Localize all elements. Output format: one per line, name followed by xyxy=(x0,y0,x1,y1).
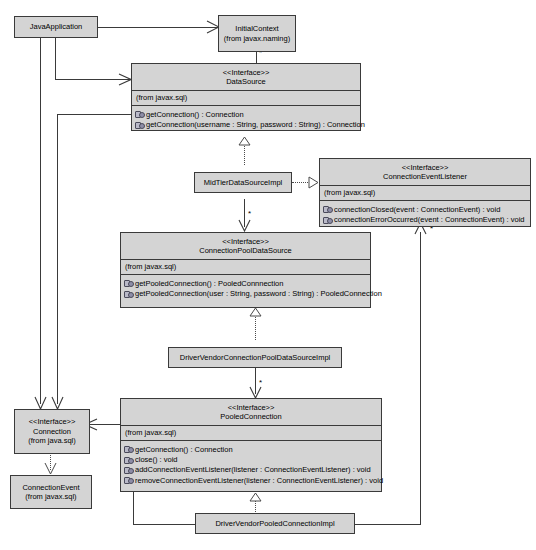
method-icon xyxy=(323,216,331,223)
class-box-drivervendorconnectionpooldatasourceimpl[interactable]: DriverVendorConnectionPoolDataSourceImpl xyxy=(168,347,342,368)
class-name-connectionpooldatasource: ConnectionPoolDataSource xyxy=(124,246,367,255)
class-box-drivervendorpooledconnectionimpl[interactable]: DriverVendorPooledConnectionImpl xyxy=(195,513,355,534)
arrowhead-cpds xyxy=(238,219,251,232)
class-box-connectioneventlistener[interactable]: <<Interface>> ConnectionEventListener (f… xyxy=(319,158,531,227)
operation-label: getConnection() : Connection xyxy=(135,445,233,454)
class-box-initialcontext[interactable]: InitialContext (from javax.naming) xyxy=(218,15,296,52)
class-stereotype-datasource: <<Interface>> xyxy=(135,68,357,77)
operation-label: addConnectionEventListener(listener : Co… xyxy=(135,465,371,474)
operation-row: getConnection(username : String, passwor… xyxy=(135,120,357,130)
edge-dvpcimpl-listener-v xyxy=(420,232,421,525)
edge-dvpcimpl-connection-h1 xyxy=(133,524,195,525)
class-operations-connectionpooldatasource: getPooledConnection() : PooledConnnectio… xyxy=(121,274,370,302)
edge-dvcpdsimpl-cpds-realization xyxy=(255,315,256,340)
class-name-datasource: DataSource xyxy=(135,77,357,86)
operation-label: removeConnectionEventListener(listener :… xyxy=(135,476,383,485)
class-box-connection[interactable]: <<Interface>> Connection (from java.sql) xyxy=(14,409,90,454)
method-icon xyxy=(124,290,132,297)
edge-javaapplication-initialcontext xyxy=(98,27,218,28)
method-icon xyxy=(124,446,132,453)
operation-row: getPooledConnection(user : String, passw… xyxy=(124,289,367,299)
class-box-pooledconnection[interactable]: <<Interface>> PooledConnection (from jav… xyxy=(120,398,382,492)
operation-row: connectionClosed(event : ConnectionEvent… xyxy=(323,204,527,214)
class-name-initialcontext: InitialContext xyxy=(235,24,278,33)
method-icon xyxy=(124,467,132,474)
operation-row: getConnection() : Connection xyxy=(135,109,357,119)
operation-row: removeConnectionEventListener(listener :… xyxy=(124,475,378,485)
class-stereotype-connection: <<Interface>> xyxy=(29,417,76,426)
arrowhead-datasource xyxy=(118,73,132,86)
class-name-javaapplication: JavaApplication xyxy=(30,22,83,31)
class-package-connectionpooldatasource: (from javax.sql) xyxy=(121,259,370,274)
triangle-listener-realization xyxy=(308,176,319,189)
class-stereotype-connectionpooldatasource: <<Interface>> xyxy=(124,237,367,246)
class-box-datasource[interactable]: <<Interface>> DataSource (from javax.sql… xyxy=(131,63,361,131)
class-box-connectionpooldatasource[interactable]: <<Interface>> ConnectionPoolDataSource (… xyxy=(120,232,371,308)
operation-label: connectionClosed(event : ConnectionEvent… xyxy=(334,205,500,214)
class-header-connectionpooldatasource: <<Interface>> ConnectionPoolDataSource xyxy=(121,233,370,259)
triangle-datasource-realization xyxy=(238,136,251,146)
operation-label: getConnection() : Connection xyxy=(146,110,244,119)
class-operations-datasource: getConnection() : Connection getConnecti… xyxy=(132,105,360,133)
edge-midtier-datasource-realization xyxy=(244,144,245,165)
method-icon xyxy=(135,121,143,128)
operation-row: addConnectionEventListener(listener : Co… xyxy=(124,465,378,475)
edge-dvpcimpl-listener-h xyxy=(355,524,421,525)
class-package-connection: (from java.sql) xyxy=(28,436,76,445)
class-package-initialcontext: (from javax.naming) xyxy=(224,34,290,43)
edge-datasource-connection-h xyxy=(57,114,131,115)
method-icon xyxy=(323,206,331,213)
method-icon xyxy=(124,477,132,484)
class-stereotype-pooledconnection: <<Interface>> xyxy=(124,403,378,412)
triangle-cpds-realization xyxy=(249,307,262,317)
triangle-pooledconnection-realization xyxy=(249,492,262,502)
class-operations-pooledconnection: getConnection() : Connection close() : v… xyxy=(121,440,381,489)
operation-row: connectionErrorOccurred(event : Connecti… xyxy=(323,215,527,225)
class-header-pooledconnection: <<Interface>> PooledConnection xyxy=(121,399,381,425)
operation-row: getPooledConnection() : PooledConnnectio… xyxy=(124,278,367,288)
operation-label: getConnection(username : String, passwor… xyxy=(146,120,365,129)
multiplicity-midtier-cpds: * xyxy=(248,209,251,218)
arrowhead-connectionevent xyxy=(44,462,57,475)
class-header-datasource: <<Interface>> DataSource xyxy=(132,64,360,90)
class-box-javaapplication[interactable]: JavaApplication xyxy=(14,16,98,38)
class-name-connectionevent: ConnectionEvent xyxy=(22,483,79,492)
class-operations-connectioneventlistener: connectionClosed(event : ConnectionEvent… xyxy=(320,200,530,228)
uml-class-diagram-canvas: * * * xyxy=(0,0,536,550)
operation-label: getPooledConnection() : PooledConnnectio… xyxy=(135,279,283,288)
edge-initialcontext-datasource xyxy=(256,52,257,63)
operation-label: close() : void xyxy=(135,455,178,464)
class-name-drivervendorconnectionpooldatasourceimpl: DriverVendorConnectionPoolDataSourceImpl xyxy=(180,353,331,362)
class-name-midtierdatasourceimpl: MidTierDataSourceImpl xyxy=(204,178,283,187)
method-icon xyxy=(124,456,132,463)
edge-datasource-connection-v xyxy=(57,114,58,404)
class-package-connectioneventlistener: (from javax.sql) xyxy=(320,185,530,200)
class-box-midtierdatasourceimpl[interactable]: MidTierDataSourceImpl xyxy=(194,172,292,193)
method-icon xyxy=(135,111,143,118)
class-header-connectioneventlistener: <<Interface>> ConnectionEventListener xyxy=(320,159,530,185)
edge-javaapplication-connection-v xyxy=(40,38,41,404)
class-name-connection: Connection xyxy=(33,427,71,436)
class-package-connectionevent: (from javax.sql) xyxy=(25,492,76,501)
operation-row: getConnection() : Connection xyxy=(124,444,378,454)
class-package-datasource: (from javax.sql) xyxy=(132,90,360,105)
operation-label: getPooledConnection(user : String, passw… xyxy=(135,289,382,298)
arrowhead-connection-from-datasource xyxy=(51,396,64,410)
operation-label: connectionErrorOccurred(event : Connecti… xyxy=(334,215,525,224)
multiplicity-cpds-pooledconnection: * xyxy=(259,378,262,387)
class-stereotype-connectioneventlistener: <<Interface>> xyxy=(323,163,527,172)
class-box-connectionevent[interactable]: ConnectionEvent (from javax.sql) xyxy=(10,475,92,509)
method-icon xyxy=(124,280,132,287)
class-name-pooledconnection: PooledConnection xyxy=(124,412,378,421)
class-name-connectioneventlistener: ConnectionEventListener xyxy=(323,172,527,181)
arrowhead-connection-from-javaapplication xyxy=(34,396,47,410)
class-name-drivervendorpooledconnectionimpl: DriverVendorPooledConnectionImpl xyxy=(215,519,334,528)
edge-javaapplication-datasource-v xyxy=(55,38,56,80)
operation-row: close() : void xyxy=(124,455,378,465)
class-package-pooledconnection: (from javax.sql) xyxy=(121,425,381,440)
